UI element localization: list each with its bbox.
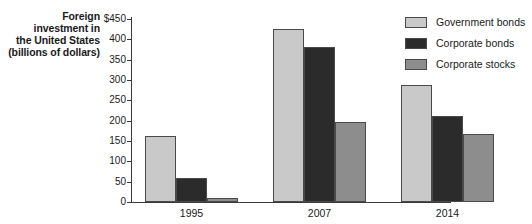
legend-label: Government bonds: [436, 17, 525, 28]
bar-2014-corporate-stocks: [463, 134, 494, 202]
x-label-2014: 2014: [388, 207, 508, 219]
legend-label: Corporate stocks: [436, 59, 515, 70]
y-tick-label-100: 100: [84, 156, 126, 166]
y-tick-label-200: 200: [84, 116, 126, 126]
y-tick-label-50: 50: [84, 177, 126, 187]
y-tick-label-400: 400: [84, 34, 126, 44]
bar-2014-government-bonds: [401, 85, 432, 202]
x-label-2007: 2007: [260, 207, 380, 219]
bar-1995-corporate-stocks: [207, 198, 238, 202]
legend-item-corporate-stocks: Corporate stocks: [405, 54, 525, 75]
plot-area: [131, 19, 450, 202]
y-tick-label-450: $450: [84, 14, 126, 24]
bar-chart-figure: Foreign investment in the United States …: [0, 0, 532, 224]
y-tick-mark-0: [127, 202, 132, 203]
legend-item-corporate-bonds: Corporate bonds: [405, 33, 525, 54]
bar-2007-corporate-stocks: [335, 122, 366, 202]
bar-2014-corporate-bonds: [432, 116, 463, 202]
x-label-1995: 1995: [132, 207, 252, 219]
legend-label: Corporate bonds: [436, 38, 514, 49]
bar-2007-corporate-bonds: [304, 47, 335, 202]
x-axis-line: [131, 202, 451, 203]
bar-1995-government-bonds: [145, 136, 176, 202]
legend-swatch-icon: [405, 17, 427, 28]
y-tick-label-150: 150: [84, 136, 126, 146]
bar-1995-corporate-bonds: [176, 178, 207, 202]
bar-2007-government-bonds: [273, 29, 304, 202]
y-tick-label-0: 0: [84, 197, 126, 207]
y-tick-label-350: 350: [84, 55, 126, 65]
legend-swatch-icon: [405, 38, 427, 49]
y-tick-label-250: 250: [84, 95, 126, 105]
legend-swatch-icon: [405, 59, 427, 70]
y-tick-label-300: 300: [84, 75, 126, 85]
chart-legend: Government bondsCorporate bondsCorporate…: [405, 12, 525, 75]
legend-item-government-bonds: Government bonds: [405, 12, 525, 33]
